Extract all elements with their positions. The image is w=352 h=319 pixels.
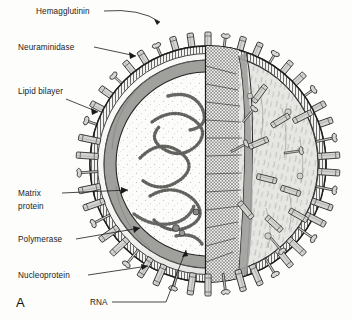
influenza-virus-diagram: Hemagglutinin Neuraminidase Lipid bilaye… <box>0 0 352 319</box>
label-matrix-protein-line1: Matrix <box>18 189 41 198</box>
label-neuraminidase: Neuraminidase <box>18 43 75 52</box>
neuraminidase-spike <box>318 168 340 176</box>
label-nucleoprotein: Nucleoprotein <box>18 271 70 280</box>
neuraminidase-spike <box>205 274 211 296</box>
label-matrix-protein-line2: protein <box>18 202 44 211</box>
neuraminidase-spike <box>318 152 340 160</box>
panel-letter: A <box>16 295 25 310</box>
cutaway-plane <box>205 46 253 282</box>
figure-panel: Hemagglutinin Neuraminidase Lipid bilaye… <box>0 0 352 319</box>
virion-body <box>90 46 326 282</box>
label-hemagglutinin: Hemagglutinin <box>36 7 90 16</box>
label-lipid-bilayer: Lipid bilayer <box>18 87 63 96</box>
label-polymerase: Polymerase <box>18 235 63 244</box>
neuraminidase-spike <box>76 152 98 160</box>
label-rna: RNA <box>90 298 108 307</box>
